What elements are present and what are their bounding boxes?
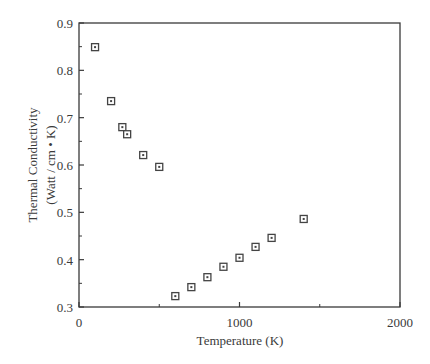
y-tick-label: 0.5 xyxy=(57,205,73,220)
x-tick-label: 2000 xyxy=(387,315,413,330)
data-point-marker xyxy=(140,152,147,159)
y-tick-label: 0.4 xyxy=(57,253,74,268)
data-point-marker xyxy=(220,263,227,270)
data-point-marker xyxy=(124,131,131,138)
data-point-marker xyxy=(204,274,211,281)
y-tick-label: 0.7 xyxy=(57,111,74,126)
scatter-chart: 0.30.40.50.60.70.80.9 010002000 Temperat… xyxy=(0,0,430,364)
y-tick-label: 0.8 xyxy=(57,63,73,78)
data-point-marker xyxy=(188,284,195,291)
plot-border xyxy=(79,23,400,307)
y-axis-title-line1: Thermal Conductivity xyxy=(25,107,40,223)
data-point-marker xyxy=(92,44,99,51)
y-tick-label: 0.3 xyxy=(57,300,73,315)
plot-frame xyxy=(79,23,400,307)
x-tick-label: 1000 xyxy=(227,315,253,330)
data-point-marker xyxy=(119,124,126,131)
data-point-marker xyxy=(108,98,115,105)
x-axis-ticks: 010002000 xyxy=(76,302,413,330)
y-tick-label: 0.6 xyxy=(57,158,74,173)
x-tick-label: 0 xyxy=(76,315,83,330)
y-tick-label: 0.9 xyxy=(57,16,73,31)
y-axis-ticks: 0.30.40.50.60.70.80.9 xyxy=(57,16,84,315)
y-axis-title-line2: (Watt / cm • K) xyxy=(43,125,58,204)
data-point-marker xyxy=(252,243,259,250)
x-axis-title: Temperature (K) xyxy=(197,333,284,348)
data-point-marker xyxy=(268,234,275,241)
data-point-marker xyxy=(156,163,163,170)
data-point-marker xyxy=(236,254,243,261)
data-points xyxy=(92,44,308,300)
data-point-marker xyxy=(172,293,179,300)
data-point-marker xyxy=(300,215,307,222)
